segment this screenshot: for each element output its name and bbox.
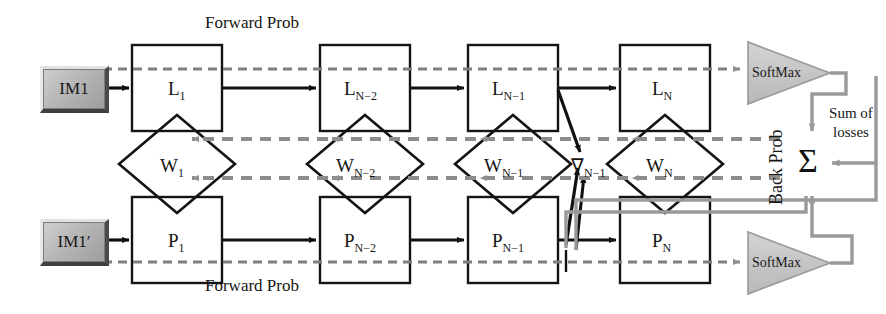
label-back-prob: Back Prob	[766, 130, 787, 206]
label-W1: W1	[160, 156, 184, 179]
label-WN1: WN−1	[484, 156, 523, 179]
label-LN1-sub: N−1	[504, 89, 525, 103]
label-PN1-base: P	[492, 230, 503, 251]
input-box-im1-prime[interactable]: IM1′	[40, 219, 109, 266]
label-LN-base: L	[652, 78, 664, 99]
label-W1-base: W	[160, 155, 178, 176]
label-PN2: PN−2	[344, 231, 376, 254]
label-L1-base: L	[168, 78, 180, 99]
label-WN: WN	[646, 156, 673, 179]
label-WN2: WN−2	[336, 156, 375, 179]
sigma-symbol: Σ	[798, 144, 818, 178]
label-WN2-base: W	[336, 155, 354, 176]
diagram-canvas: Forward Prob Forward Prob IM1 IM1′ L1 LN…	[0, 0, 886, 314]
label-LN1-base: L	[492, 78, 504, 99]
label-gradient-sub: N−1	[584, 166, 605, 180]
input-box-im1[interactable]: IM1	[40, 66, 109, 113]
label-W1-sub: 1	[178, 166, 184, 180]
sum-of-losses-line1: Sum of	[816, 105, 886, 122]
label-L1-sub: 1	[180, 89, 186, 103]
label-PN1-sub: N−1	[503, 241, 524, 255]
label-PN2-sub: N−2	[355, 241, 376, 255]
label-LN2-base: L	[344, 78, 356, 99]
label-WN1-base: W	[484, 155, 502, 176]
label-gradient-N1: ∇N−1	[571, 156, 605, 179]
header-forward-prob-bottom: Forward Prob	[205, 277, 299, 294]
loss-path-top	[812, 73, 846, 131]
label-LN2-sub: N−2	[356, 89, 377, 103]
label-PN-sub: N	[663, 241, 672, 255]
label-PN1: PN−1	[492, 231, 524, 254]
label-LN1: LN−1	[492, 79, 525, 102]
label-WN1-sub: N−1	[502, 166, 523, 180]
softmax-bottom-label[interactable]: SoftMax	[752, 255, 801, 271]
label-P1-sub: 1	[179, 241, 185, 255]
label-PN2-base: P	[344, 230, 355, 251]
label-WN-base: W	[646, 155, 664, 176]
label-PN-base: P	[652, 230, 663, 251]
label-LN: LN	[652, 79, 672, 102]
label-LN2: LN−2	[344, 79, 377, 102]
softmax-top-label[interactable]: SoftMax	[752, 65, 801, 81]
label-gradient-base: ∇	[571, 155, 584, 176]
loss-path-bottom	[812, 196, 852, 263]
label-PN: PN	[652, 231, 671, 254]
label-WN2-sub: N−2	[354, 166, 375, 180]
label-WN-sub: N	[664, 166, 673, 180]
arrow-LN1-to-gradient	[558, 90, 580, 152]
sum-of-losses-line2: losses	[816, 124, 886, 141]
label-P1-base: P	[168, 230, 179, 251]
header-forward-prob-top: Forward Prob	[205, 14, 299, 31]
label-L1: L1	[168, 79, 186, 102]
label-LN-sub: N	[664, 89, 673, 103]
input-box-im1-label: IM1	[59, 79, 88, 99]
label-P1: P1	[168, 231, 185, 254]
input-box-im1-prime-label: IM1′	[58, 232, 91, 252]
